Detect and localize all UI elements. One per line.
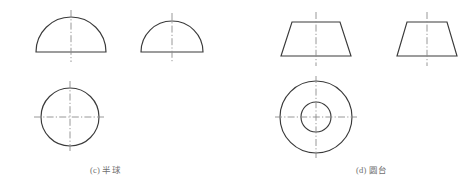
- group-truncated-cone: [275, 12, 457, 158]
- technical-drawing-figure: (c) 半球 (d) 圆台: [0, 0, 476, 192]
- front-view-semicircle: [36, 10, 106, 62]
- caption-truncated-cone: (d) 圆台: [356, 163, 387, 175]
- top-view-circle: [34, 81, 106, 153]
- semicircle-outline: [36, 17, 106, 52]
- drawing-canvas: [0, 0, 476, 192]
- top-view-concentric-circles: [275, 76, 357, 158]
- front-view-trapezoid: [281, 12, 351, 66]
- caption-hemisphere: (c) 半球: [90, 163, 121, 175]
- side-view-trapezoid: [397, 12, 457, 66]
- side-view-semicircle: [141, 13, 203, 62]
- group-hemisphere: [34, 10, 203, 153]
